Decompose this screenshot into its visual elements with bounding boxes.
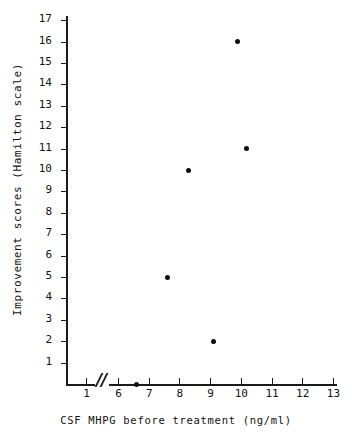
y-tick: 9 bbox=[61, 191, 67, 192]
x-tick-label: 10 bbox=[235, 388, 248, 400]
data-point bbox=[134, 382, 139, 387]
y-tick: 6 bbox=[61, 256, 67, 257]
y-tick-label: 3 bbox=[30, 313, 52, 325]
y-tick: 12 bbox=[61, 127, 67, 128]
data-point bbox=[186, 168, 191, 173]
x-tick-label: 11 bbox=[265, 388, 278, 400]
y-axis-title: Improvement scores (Hamilton scale) bbox=[11, 40, 24, 340]
x-tick-label: 1 bbox=[83, 388, 90, 400]
data-point bbox=[165, 275, 170, 280]
y-tick: 3 bbox=[61, 320, 67, 321]
y-tick: 5 bbox=[61, 277, 67, 278]
y-tick-label: 2 bbox=[30, 334, 52, 346]
y-tick: 8 bbox=[61, 213, 67, 214]
y-tick-label: 7 bbox=[30, 227, 52, 239]
y-tick-label: 4 bbox=[30, 291, 52, 303]
x-tick: 12 bbox=[302, 378, 303, 385]
y-tick-label: 10 bbox=[30, 163, 52, 175]
y-tick: 14 bbox=[61, 84, 67, 85]
y-tick-label: 6 bbox=[30, 249, 52, 261]
y-tick-label: 14 bbox=[30, 77, 52, 89]
y-tick: 2 bbox=[61, 341, 67, 342]
x-tick: 7 bbox=[149, 378, 150, 385]
y-tick: 7 bbox=[61, 234, 67, 235]
x-tick-label: 6 bbox=[115, 388, 122, 400]
x-tick-label: 12 bbox=[296, 388, 309, 400]
x-tick-label: 8 bbox=[177, 388, 184, 400]
x-tick: 13 bbox=[333, 378, 334, 385]
x-tick: 11 bbox=[272, 378, 273, 385]
plot-area: 1234567891011121314151617 16789101112131… bbox=[66, 16, 337, 386]
x-axis-title: CSF MHPG before treatment (ng/ml) bbox=[0, 414, 352, 426]
y-tick: 4 bbox=[61, 298, 67, 299]
x-tick: 10 bbox=[241, 378, 242, 385]
x-tick-label: 13 bbox=[327, 388, 340, 400]
x-tick: 8 bbox=[179, 378, 180, 385]
x-tick: 1 bbox=[86, 378, 87, 385]
y-tick: 11 bbox=[61, 149, 67, 150]
y-tick-label: 13 bbox=[30, 99, 52, 111]
data-point bbox=[211, 339, 216, 344]
y-tick-label: 11 bbox=[30, 142, 52, 154]
y-tick-label: 12 bbox=[30, 120, 52, 132]
y-tick: 10 bbox=[61, 170, 67, 171]
y-tick-label: 17 bbox=[30, 13, 52, 25]
y-tick-label: 1 bbox=[30, 356, 52, 368]
y-tick-label: 5 bbox=[30, 270, 52, 282]
y-tick: 1 bbox=[61, 363, 67, 364]
y-tick: 15 bbox=[61, 63, 67, 64]
y-tick: 16 bbox=[61, 42, 67, 43]
y-tick: 17 bbox=[61, 20, 67, 21]
y-tick-label: 15 bbox=[30, 56, 52, 68]
data-point bbox=[244, 146, 249, 151]
y-tick: 13 bbox=[61, 106, 67, 107]
data-point bbox=[235, 39, 240, 44]
x-tick: 6 bbox=[118, 378, 119, 385]
y-axis-line bbox=[66, 16, 68, 386]
y-tick-label: 9 bbox=[30, 184, 52, 196]
y-tick-label: 16 bbox=[30, 35, 52, 47]
x-tick: 9 bbox=[210, 378, 211, 385]
x-tick-label: 9 bbox=[207, 388, 214, 400]
scatter-plot-figure: Improvement scores (Hamilton scale) 1234… bbox=[0, 0, 352, 437]
y-tick-label: 8 bbox=[30, 206, 52, 218]
x-tick-label: 7 bbox=[146, 388, 153, 400]
